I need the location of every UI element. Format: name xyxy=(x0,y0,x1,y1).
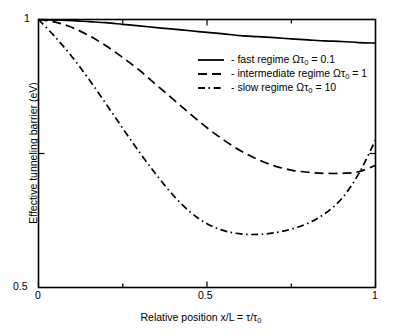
legend-swatch-solid xyxy=(198,55,224,65)
y-axis-title: Effective tunneling barrier (eV) xyxy=(27,58,39,248)
chart-figure: 1 0.5 0 0.5 1 Relative position x/L = τ/… xyxy=(0,0,402,335)
x-tick-label-1: 1 xyxy=(372,290,378,301)
legend-entry-1: - intermediate regime Ωτ0 = 1 xyxy=(198,67,378,81)
legend-label-subscript-1: 0 xyxy=(345,72,349,81)
legend-label-1: - intermediate regime Ωτ0 = 1 xyxy=(231,68,367,81)
x-axis-title-subscript: 0 xyxy=(257,316,261,325)
legend-label-2: - slow regime Ωτ0 = 10 xyxy=(231,82,336,95)
x-tick-label-0-5: 0.5 xyxy=(198,290,213,301)
plot-canvas xyxy=(0,0,402,335)
y-tick-label-0-5: 0.5 xyxy=(13,281,28,292)
legend-entry-0: - fast regime Ωτ0 = 0.1 xyxy=(198,53,378,67)
legend-swatch-dashdot xyxy=(198,83,224,93)
x-axis-title: Relative position x/L = τ/τ0 xyxy=(0,311,402,325)
y-tick-label-1: 1 xyxy=(24,13,30,24)
legend-label-0: - fast regime Ωτ0 = 0.1 xyxy=(231,54,335,67)
legend-label-subscript-0: 0 xyxy=(304,58,308,67)
legend: - fast regime Ωτ0 = 0.1- intermediate re… xyxy=(198,53,378,95)
legend-swatch-dashed xyxy=(198,69,224,79)
series-line-dashed xyxy=(39,20,376,174)
x-axis-ticks xyxy=(39,282,376,288)
data-series-layer xyxy=(39,20,376,235)
x-tick-label-0: 0 xyxy=(35,290,41,301)
x-axis-ticks-top xyxy=(123,20,291,26)
legend-entry-2: - slow regime Ωτ0 = 10 xyxy=(198,81,378,95)
legend-label-subscript-2: 0 xyxy=(308,86,312,95)
x-axis-title-text: Relative position x/L = τ/τ xyxy=(141,311,258,323)
